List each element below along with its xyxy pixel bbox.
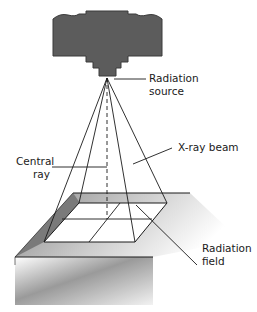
central-ray-label-1: Central (16, 155, 54, 167)
xray-beam-label: X-ray beam (178, 141, 239, 153)
radiation-source-label-1: Radiation (149, 72, 199, 84)
central-ray-label-2: ray (33, 168, 50, 180)
radiation-field-label-1: Radiation (202, 242, 252, 254)
radiation-source-label-2: source (149, 85, 184, 97)
radiation-field-label-2: field (202, 255, 225, 267)
xray-diagram: Radiation source X-ray beam Central ray … (0, 0, 257, 312)
xray-tube (53, 11, 162, 76)
